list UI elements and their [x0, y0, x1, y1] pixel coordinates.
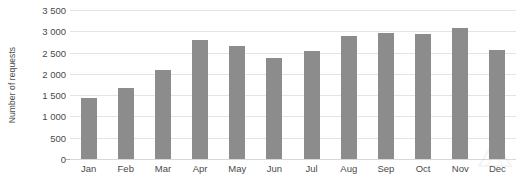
- y-axis-tick-label: 3 500: [42, 5, 66, 16]
- bar: [378, 33, 394, 159]
- bar-slot: [442, 10, 479, 159]
- bar: [81, 98, 97, 159]
- x-axis-tick-labels: JanFebMarAprMayJunJulAugSepOctNovDec: [70, 163, 516, 183]
- y-axis-tick-label: 1 000: [42, 111, 66, 122]
- x-axis-tick-label: Nov: [452, 163, 469, 174]
- bar-slot: [330, 10, 367, 159]
- bar: [304, 51, 320, 159]
- x-axis-tick-label: Dec: [489, 163, 506, 174]
- x-axis-line: [66, 159, 70, 160]
- x-axis-tick-label: Sep: [377, 163, 394, 174]
- x-axis-tick-label: Oct: [416, 163, 431, 174]
- x-axis-tick-label: Jan: [81, 163, 96, 174]
- bar-slot: [367, 10, 404, 159]
- x-axis-tick-label: Feb: [118, 163, 134, 174]
- bar-slot: [405, 10, 442, 159]
- bar: [118, 88, 134, 159]
- bar: [229, 46, 245, 159]
- bar-slot: [70, 10, 107, 159]
- plot-area: [70, 10, 516, 159]
- y-axis-tick-label: 3 000: [42, 26, 66, 37]
- y-axis-tick-label: 2 000: [42, 68, 66, 79]
- x-axis-tick-label: May: [228, 163, 246, 174]
- y-axis-tick-label: 1 500: [42, 90, 66, 101]
- bars: [70, 10, 516, 159]
- bar-slot: [182, 10, 219, 159]
- bar: [415, 34, 431, 159]
- x-axis-tick-label: Jun: [267, 163, 282, 174]
- x-axis-tick-label: Mar: [155, 163, 171, 174]
- bar: [155, 70, 171, 159]
- y-axis-tick-label: 500: [50, 132, 66, 143]
- x-axis-tick-label: Apr: [193, 163, 208, 174]
- y-axis-title-label: Number of requests: [7, 47, 17, 123]
- y-axis-title: Number of requests: [0, 0, 24, 170]
- y-axis-tick-label: 2 500: [42, 47, 66, 58]
- x-axis-tick-label: Jul: [306, 163, 318, 174]
- bar-slot: [256, 10, 293, 159]
- bar: [266, 58, 282, 159]
- bar-slot: [144, 10, 181, 159]
- bar-slot: [293, 10, 330, 159]
- bar-chart: Number of requests 05001 0001 5002 0002 …: [0, 0, 523, 192]
- bar-slot: [479, 10, 516, 159]
- bar: [341, 36, 357, 159]
- gridline: [70, 159, 516, 160]
- bar: [489, 50, 505, 159]
- y-axis-tick-labels: 05001 0001 5002 0002 5003 0003 500: [24, 0, 70, 170]
- x-axis-tick-label: Aug: [340, 163, 357, 174]
- bar-slot: [219, 10, 256, 159]
- bar: [192, 40, 208, 159]
- bar: [452, 28, 468, 159]
- bar-slot: [107, 10, 144, 159]
